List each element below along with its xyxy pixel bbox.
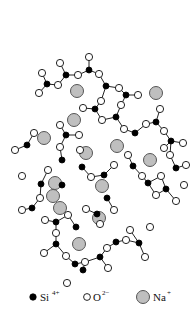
sodium-ion xyxy=(111,140,124,153)
oxygen-atom xyxy=(85,53,92,60)
silicon-atom xyxy=(29,205,35,211)
oxygen-atom xyxy=(56,59,63,66)
silicon-atom xyxy=(53,241,59,247)
legend-item-na: Na + xyxy=(137,289,172,304)
sodium-ion xyxy=(71,85,84,98)
oxygen-atom xyxy=(79,104,86,111)
oxygen-atom xyxy=(56,143,63,150)
oxygen-atom xyxy=(110,161,117,168)
silicon-atom xyxy=(80,267,86,273)
oxygen-atoms xyxy=(11,53,189,286)
silicon-atom xyxy=(38,181,44,187)
sodium-ion xyxy=(54,202,67,215)
oxygen-atom xyxy=(41,216,48,223)
silicon-atom xyxy=(63,132,69,138)
silicon-atom xyxy=(92,106,98,112)
silicon-atom xyxy=(59,157,65,163)
oxygen-atom xyxy=(30,129,37,136)
silicon-atom xyxy=(153,119,159,125)
oxygen-atom xyxy=(172,197,179,204)
oxygen-atom xyxy=(156,105,163,112)
silicon-atom xyxy=(163,186,169,192)
legend-charge-na: + xyxy=(167,289,171,297)
si-legend-icon xyxy=(30,294,36,300)
oxygen-atom xyxy=(64,211,71,218)
oxygen-atom xyxy=(138,172,145,179)
sodium-ion xyxy=(150,87,163,100)
silicon-atom xyxy=(73,224,79,230)
oxygen-atom xyxy=(180,181,187,188)
legend: Si 4+ O 2− Na + xyxy=(30,289,171,304)
silicon-atom xyxy=(145,180,151,186)
sodium-ion xyxy=(68,114,81,127)
silicon-atom xyxy=(63,72,69,78)
oxygen-atom xyxy=(54,81,61,88)
oxygen-atom xyxy=(98,116,105,123)
sodium-ion xyxy=(38,132,51,145)
oxygen-atom xyxy=(122,236,129,243)
silicon-atom xyxy=(173,165,179,171)
legend-charge-o: 2− xyxy=(102,289,110,297)
silicon-atom xyxy=(94,211,100,217)
oxygen-atom xyxy=(52,229,59,236)
oxygen-atom xyxy=(75,131,82,138)
silicon-atom xyxy=(168,138,174,144)
silicon-atom xyxy=(86,67,92,73)
oxygen-atom xyxy=(166,151,173,158)
oxygen-atom xyxy=(87,173,94,180)
oxygen-atom xyxy=(120,125,127,132)
silicon-atom xyxy=(123,92,129,98)
silicon-atom xyxy=(53,219,59,225)
oxygen-atom xyxy=(124,151,131,158)
oxygen-atom xyxy=(152,191,159,198)
legend-item-o: O 2− xyxy=(84,289,110,303)
oxygen-atom xyxy=(157,172,164,179)
oxygen-atom xyxy=(44,166,51,173)
na-legend-icon xyxy=(137,291,150,304)
oxygen-atom xyxy=(38,69,45,76)
silicon-atom xyxy=(101,172,107,178)
silicon-atom xyxy=(44,81,50,87)
silicon-atom xyxy=(132,130,138,136)
silicon-atom xyxy=(24,142,30,148)
oxygen-atom xyxy=(11,146,18,153)
sodium-ion xyxy=(47,190,60,203)
oxygen-atom xyxy=(126,226,133,233)
legend-item-si: Si 4+ xyxy=(30,289,60,303)
legend-label-o: O xyxy=(93,291,101,303)
oxygen-atom xyxy=(62,252,69,259)
silicon-atom xyxy=(130,163,136,169)
oxygen-atom xyxy=(117,101,124,108)
sodium-ion xyxy=(144,154,157,167)
oxygen-atom xyxy=(115,84,122,91)
oxygen-atom xyxy=(179,139,186,146)
oxygen-atom xyxy=(160,144,167,151)
oxygen-atom xyxy=(104,264,111,271)
silicon-atom xyxy=(136,240,142,246)
oxygen-atom xyxy=(97,97,104,104)
silicon-atom xyxy=(104,195,110,201)
legend-label-si: Si xyxy=(40,291,49,303)
oxygen-atom xyxy=(40,249,47,256)
oxygen-atom xyxy=(146,223,153,230)
silicon-atom xyxy=(113,114,119,120)
oxygen-atom xyxy=(63,279,70,286)
oxygen-atom xyxy=(35,89,42,96)
oxygen-atom xyxy=(56,121,63,128)
silicon-atom xyxy=(59,182,65,188)
oxygen-atom xyxy=(160,127,167,134)
oxygen-atom xyxy=(103,244,110,251)
silicon-atom xyxy=(113,239,119,245)
oxygen-atom xyxy=(110,206,117,213)
oxygen-atom xyxy=(76,146,83,153)
oxygen-atom xyxy=(82,205,89,212)
oxygen-atom xyxy=(18,206,25,213)
oxygen-atom xyxy=(141,253,148,260)
oxygen-atom xyxy=(142,120,149,127)
legend-charge-si: 4+ xyxy=(52,289,60,297)
oxygen-atom xyxy=(95,70,102,77)
silicate-network-diagram: Si 4+ O 2− Na + xyxy=(0,0,195,322)
legend-label-na: Na xyxy=(153,291,166,303)
sodium-ion xyxy=(73,238,86,251)
silicon-atom xyxy=(103,83,109,89)
